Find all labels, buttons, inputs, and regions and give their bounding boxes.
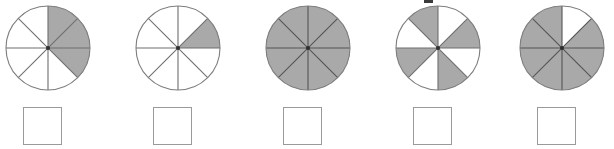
circle-center-dot — [560, 46, 564, 50]
fraction-circle-3 — [260, 0, 360, 96]
fraction-circle-2 — [130, 0, 230, 96]
answer-box-3[interactable] — [283, 107, 322, 145]
fraction-circle-1-group — [0, 0, 100, 149]
answer-box-5[interactable] — [537, 107, 576, 145]
answer-box-1[interactable] — [23, 107, 62, 145]
fraction-worksheet — [0, 0, 614, 149]
fraction-circle-4 — [390, 0, 490, 96]
fraction-circle-3-group — [260, 0, 360, 149]
circle-center-dot — [176, 46, 180, 50]
circle-center-dot — [306, 46, 310, 50]
fraction-circle-2-group — [130, 0, 230, 149]
fraction-circle-4-group — [390, 0, 490, 149]
circle-center-dot — [46, 46, 50, 50]
fraction-circle-1 — [0, 0, 100, 96]
fraction-circle-5 — [514, 0, 614, 96]
circle-center-dot — [436, 46, 440, 50]
clipped-text-artifact — [424, 0, 433, 3]
answer-box-4[interactable] — [413, 107, 452, 145]
answer-box-2[interactable] — [153, 107, 192, 145]
fraction-circle-5-group — [514, 0, 614, 149]
